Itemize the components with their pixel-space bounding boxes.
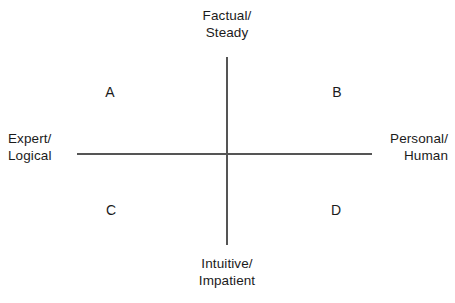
quadrant-diagram: Factual/ Steady Intuitive/ Impatient Exp… [0,0,455,303]
axis-label-top: Factual/ Steady [146,8,308,41]
axis-label-left: Expert/ Logical [8,131,72,164]
quadrant-label-a: A [101,84,119,100]
quadrant-label-b: B [328,84,346,100]
horizontal-axis-line [77,153,372,155]
axis-label-bottom: Intuitive/ Impatient [146,256,308,289]
vertical-axis-line [226,57,228,245]
quadrant-label-d: D [327,202,345,218]
axis-label-right: Personal/ Human [368,131,448,164]
quadrant-label-c: C [102,202,120,218]
